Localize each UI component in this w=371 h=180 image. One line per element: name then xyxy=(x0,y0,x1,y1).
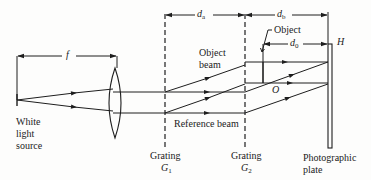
source-label-line1: White xyxy=(16,116,40,127)
grating-g1-symbol: G1 xyxy=(161,162,172,177)
object-beam-label-line2: beam xyxy=(199,59,221,70)
source-label-line3: source xyxy=(16,140,42,151)
plate-label-line2: plate xyxy=(303,164,322,175)
photographic-plate xyxy=(328,44,332,148)
ray-lower-arrow xyxy=(17,100,74,107)
reference-beam-label: Reference beam xyxy=(174,118,239,129)
hologram-label: H xyxy=(337,36,344,47)
d-b-subscript: b xyxy=(282,13,286,21)
grating-g1-label: Grating xyxy=(150,150,181,161)
g2-subscript: 2 xyxy=(248,167,252,175)
source-label-line2: light xyxy=(16,128,34,139)
grating-g2-symbol: G2 xyxy=(241,162,252,177)
d-a-label: da xyxy=(197,8,205,23)
object-callout-label: Object xyxy=(274,24,301,35)
d-b-label: db xyxy=(277,8,286,23)
d-a-subscript: a xyxy=(202,13,205,21)
ray-upper-arrow xyxy=(17,93,74,100)
focal-length-label: f xyxy=(66,49,69,60)
d-0-label: d0 xyxy=(290,37,299,52)
holography-setup-diagram: f da db d0 H Object O Object beam Refere… xyxy=(0,0,371,180)
plate-label-line1: Photographic xyxy=(303,152,356,163)
object-beam-label-line1: Object xyxy=(199,47,226,58)
grating-g2-label: Grating xyxy=(231,150,262,161)
lens xyxy=(109,68,121,138)
object-point-label: O xyxy=(272,84,279,95)
g1-subscript: 1 xyxy=(168,167,172,175)
d-0-subscript: 0 xyxy=(295,42,299,50)
